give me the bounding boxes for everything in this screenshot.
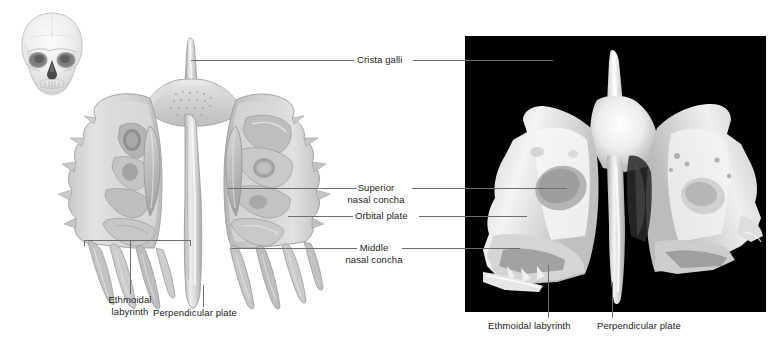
leader-middle-nasal-concha-left	[231, 248, 357, 249]
leader-orbital-plate-left	[288, 216, 353, 217]
label-orbital-plate-text: Orbital plate	[355, 210, 408, 221]
leader-ethmoidal-labyrinth-bracket	[84, 240, 191, 241]
label-middle-nasal-concha-line1: Middle	[345, 242, 403, 254]
label-photo-perpendicular-plate: Perpendicular plate	[597, 320, 681, 331]
label-superior-nasal-concha-line1: Superior	[345, 182, 407, 194]
leader-superior-nasal-concha-right	[412, 188, 567, 189]
leader-orbital-plate-right	[419, 216, 527, 217]
label-crista-galli-text: Crista galli	[357, 54, 403, 65]
ethmoid-bone-photograph	[465, 36, 766, 312]
label-orbital-plate: Orbital plate	[355, 210, 408, 221]
label-superior-nasal-concha-line2: nasal concha	[345, 194, 407, 206]
leader-crista-galli-right	[413, 60, 553, 61]
label-middle-nasal-concha-line2: nasal concha	[345, 254, 403, 266]
leader-crista-galli-left	[191, 60, 354, 61]
anatomy-figure: Crista galli Superior nasal concha Orbit…	[0, 0, 775, 348]
leader-ethmoidal-labyrinth-tick-left	[84, 240, 85, 246]
label-superior-nasal-concha: Superior nasal concha	[345, 182, 407, 205]
ethmoid-bone-illustration	[50, 30, 340, 315]
label-ethmoidal-labyrinth-line1: Ethmoidal	[95, 294, 165, 306]
label-perpendicular-plate: Perpendicular plate	[153, 307, 237, 318]
leader-ethmoidal-labyrinth-drop	[130, 240, 131, 294]
label-photo-perpendicular-plate-text: Perpendicular plate	[597, 320, 681, 331]
leader-photo-perpendicular-plate	[612, 282, 613, 318]
label-middle-nasal-concha: Middle nasal concha	[345, 242, 403, 265]
label-perpendicular-plate-text: Perpendicular plate	[153, 307, 237, 318]
leader-ethmoidal-labyrinth-tick-right	[190, 240, 191, 246]
leader-superior-nasal-concha-left	[228, 188, 357, 189]
label-photo-ethmoidal-labyrinth: Ethmoidal labyrinth	[488, 320, 571, 331]
label-crista-galli: Crista galli	[357, 54, 403, 65]
leader-perpendicular-plate-drop	[203, 285, 204, 307]
leader-middle-nasal-concha-right	[402, 248, 520, 249]
leader-photo-ethmoidal-labyrinth	[548, 265, 549, 318]
label-photo-ethmoidal-labyrinth-text: Ethmoidal labyrinth	[488, 320, 571, 331]
